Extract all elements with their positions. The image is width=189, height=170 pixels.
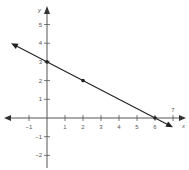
x-tick-label: −1 [26, 124, 34, 130]
y-axis-arrow-icon [44, 6, 50, 14]
data-point [45, 60, 49, 64]
y-tick-label: −2 [35, 152, 43, 158]
x-tick-label: 4 [117, 124, 121, 130]
x-tick-label: 2 [81, 124, 85, 130]
x-axis-left-arrow-icon [4, 115, 11, 121]
data-point [81, 79, 85, 83]
y-tick-label: −1 [35, 134, 43, 140]
coordinate-plane: −11234567−2−112345xy [0, 0, 189, 170]
y-tick-label: 1 [39, 96, 43, 102]
x-axis-right-arrow-icon [179, 115, 186, 121]
data-point [153, 116, 157, 120]
x-axis-label: x [181, 123, 186, 129]
x-tick-label: 6 [153, 124, 157, 130]
x-tick-label: 1 [63, 124, 67, 130]
x-tick-label: 5 [135, 124, 139, 130]
y-tick-label: 5 [39, 22, 43, 28]
x-tick-label: 7 [171, 107, 175, 113]
x-tick-label: 3 [99, 124, 103, 130]
y-tick-label: 4 [39, 40, 43, 46]
y-tick-label: 2 [39, 78, 43, 84]
y-axis-label: y [37, 7, 42, 13]
graph-line [15, 45, 169, 125]
